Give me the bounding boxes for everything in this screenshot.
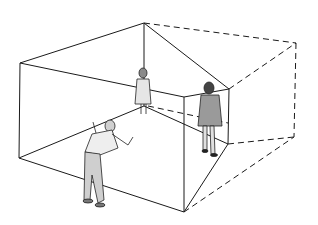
room-solid-edges — [19, 23, 229, 212]
ames-room-illustration — [0, 0, 318, 225]
room-diagram — [0, 0, 318, 225]
girl-figure — [135, 68, 151, 114]
man-figure — [198, 82, 222, 157]
observer-figure — [83, 120, 133, 207]
